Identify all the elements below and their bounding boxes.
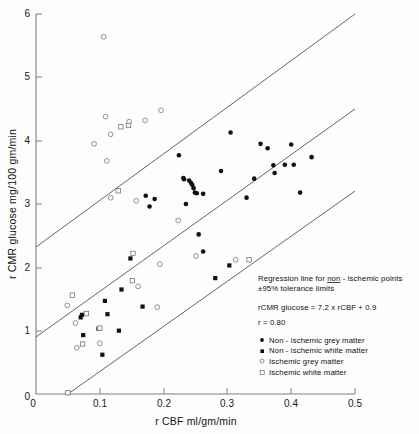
data-point-non-ischemic-white <box>117 329 121 333</box>
data-point-ischemic-white <box>70 293 74 297</box>
annotation-line-1: Regression line for non - ischemic point… <box>258 274 403 283</box>
data-point-non-ischemic-grey <box>291 162 296 167</box>
annotation-block: Regression line for non - ischemic point… <box>258 274 403 327</box>
x-axis-tick-labels: 0 0.1 0.2 0.3 0.4 0.5 <box>30 398 362 409</box>
data-point-ischemic-grey <box>155 305 160 310</box>
data-point-ischemic-white <box>131 251 135 255</box>
data-point-non-ischemic-white <box>103 299 107 303</box>
data-point-non-ischemic-grey <box>271 163 276 168</box>
plot-canvas: 6 5 4 3 2 1 0 0 0.1 0.2 0.3 0.4 0.5 r CB… <box>0 0 419 434</box>
data-point-ischemic-grey <box>97 341 102 346</box>
data-point-ischemic-white <box>84 311 88 315</box>
legend-marker-filled-square <box>260 349 264 353</box>
legend-label-non-ischemic-grey-matter: Non - ischemic grey matter <box>269 336 365 345</box>
data-point-non-ischemic-grey <box>147 204 152 209</box>
data-point-non-ischemic-white <box>140 305 144 309</box>
x-axis-title: r CBF ml/gm/min <box>155 415 237 427</box>
annotation-line-1-underlined: non <box>327 274 340 283</box>
data-point-non-ischemic-white <box>105 312 109 316</box>
data-point-ischemic-white <box>247 258 251 262</box>
data-point-non-ischemic-white <box>79 315 83 319</box>
data-point-non-ischemic-grey <box>182 177 187 182</box>
annotation-line-2: ±95% tolerance limits <box>258 284 334 293</box>
data-point-non-ischemic-grey <box>244 195 249 200</box>
data-point-ischemic-grey <box>159 108 164 113</box>
x-tick-0.5: 0.5 <box>348 398 362 409</box>
data-point-ischemic-grey <box>134 198 139 203</box>
data-point-non-ischemic-grey <box>289 142 294 147</box>
data-point-non-ischemic-grey <box>143 193 148 198</box>
data-point-ischemic-grey <box>65 303 70 308</box>
annotation-equation: rCMR glucose = 7.2 x rCBF + 0.9 <box>258 303 376 312</box>
data-point-ischemic-grey <box>103 114 108 119</box>
data-point-non-ischemic-grey <box>194 191 199 196</box>
legend-marker-open-square <box>260 370 264 374</box>
data-point-non-ischemic-grey <box>152 197 157 202</box>
data-point-non-ischemic-white <box>81 333 85 337</box>
series-ischemic-white-matter <box>66 123 252 395</box>
data-point-non-ischemic-grey <box>201 249 206 254</box>
y-tick-3: 3 <box>24 198 30 209</box>
data-point-non-ischemic-grey <box>309 155 314 160</box>
x-tick-0.4: 0.4 <box>284 398 298 409</box>
data-point-ischemic-white <box>80 342 84 346</box>
data-point-ischemic-grey <box>136 284 141 289</box>
data-point-non-ischemic-grey <box>258 142 263 147</box>
annotation-line-1-pre: Regression line for <box>258 274 327 283</box>
data-point-ischemic-grey <box>104 159 109 164</box>
data-point-ischemic-white <box>116 189 120 193</box>
data-point-ischemic-grey <box>176 218 181 223</box>
x-tick-0.1: 0.1 <box>93 398 107 409</box>
x-tick-0.2: 0.2 <box>157 398 171 409</box>
x-tick-0: 0 <box>30 398 36 409</box>
data-point-non-ischemic-white <box>227 263 231 267</box>
y-axis-ticks <box>36 14 42 331</box>
data-point-ischemic-grey <box>233 257 238 262</box>
data-point-non-ischemic-grey <box>191 186 196 191</box>
annotation-correlation: r = 0.80 <box>258 318 286 327</box>
x-axis-ticks <box>100 388 355 394</box>
data-point-ischemic-grey <box>74 345 79 350</box>
data-point-ischemic-grey <box>157 262 162 267</box>
y-tick-2: 2 <box>24 262 30 273</box>
data-point-non-ischemic-grey <box>219 169 224 174</box>
data-point-ischemic-grey <box>194 254 199 259</box>
y-tick-6: 6 <box>24 8 30 19</box>
data-point-ischemic-white <box>130 278 134 282</box>
y-axis-tick-labels: 6 5 4 3 2 1 0 <box>24 8 30 402</box>
y-tick-5: 5 <box>24 71 30 82</box>
data-point-ischemic-grey <box>92 141 97 146</box>
data-point-ischemic-white <box>126 123 130 127</box>
data-point-ischemic-white <box>119 125 123 129</box>
data-point-ischemic-grey <box>143 118 148 123</box>
legend-label-ischemic-white-matter: Ischemic white matter <box>269 368 347 377</box>
data-point-non-ischemic-grey <box>228 130 233 135</box>
series-non-ischemic-grey-matter <box>143 130 313 254</box>
y-axis-title: r CMR glucose mg/100 gm/min <box>6 129 18 279</box>
y-tick-1: 1 <box>24 325 30 336</box>
y-tick-4: 4 <box>24 135 30 146</box>
x-tick-0.3: 0.3 <box>220 398 234 409</box>
data-point-non-ischemic-grey <box>177 153 182 158</box>
legend-label-ischemic-grey-matter: Ischemic grey matter <box>269 357 344 366</box>
data-point-non-ischemic-white <box>100 353 104 357</box>
data-point-non-ischemic-grey <box>201 192 206 197</box>
data-point-ischemic-white <box>98 326 102 330</box>
scatter-plot-figure: 6 5 4 3 2 1 0 0 0.1 0.2 0.3 0.4 0.5 r CB… <box>0 0 419 434</box>
data-point-non-ischemic-white <box>128 256 132 260</box>
data-point-non-ischemic-white <box>119 287 123 291</box>
annotation-line-1-post: - ischemic points <box>340 274 402 283</box>
data-point-ischemic-grey <box>73 321 78 326</box>
data-point-non-ischemic-grey <box>265 146 270 151</box>
data-point-ischemic-white <box>66 391 70 395</box>
legend-marker-filled-circle <box>260 338 264 342</box>
data-point-non-ischemic-grey <box>184 202 189 207</box>
data-point-non-ischemic-grey <box>283 162 288 167</box>
legend-marker-open-circle <box>260 359 264 363</box>
data-point-ischemic-grey <box>101 34 106 39</box>
data-point-ischemic-grey <box>108 132 113 137</box>
series-non-ischemic-white-matter <box>66 256 232 394</box>
data-point-non-ischemic-grey <box>252 176 257 181</box>
data-point-non-ischemic-grey <box>298 190 303 195</box>
legend-label-non-ischemic-white-matter: Non - ischemic white matter <box>269 346 368 355</box>
